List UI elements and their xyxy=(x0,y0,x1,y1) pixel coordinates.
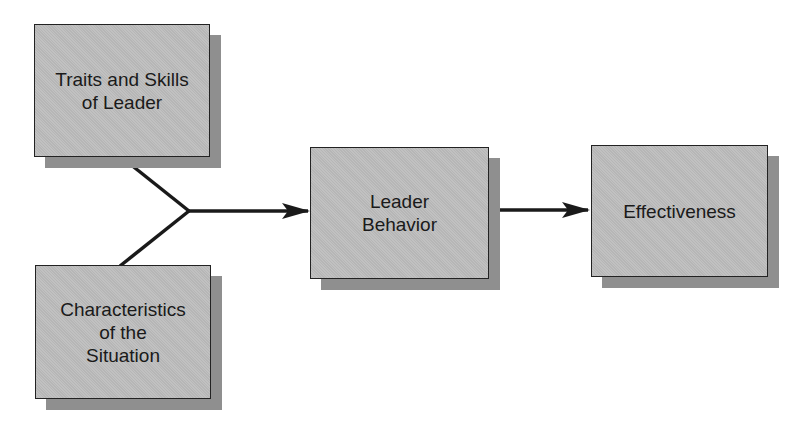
traits-connector-line xyxy=(120,156,189,211)
node-characteristics-of-situation: Characteristics of the Situation xyxy=(35,265,211,399)
situation-connector-line xyxy=(120,211,189,266)
node-label: Characteristics of the Situation xyxy=(60,298,186,367)
node-effectiveness: Effectiveness xyxy=(591,145,768,277)
node-leader-behavior: Leader Behavior xyxy=(310,147,489,279)
node-traits-and-skills: Traits and Skills of Leader xyxy=(34,24,210,157)
node-label: Effectiveness xyxy=(623,200,736,223)
node-label: Leader Behavior xyxy=(362,190,437,236)
node-label: Traits and Skills of Leader xyxy=(55,68,188,114)
